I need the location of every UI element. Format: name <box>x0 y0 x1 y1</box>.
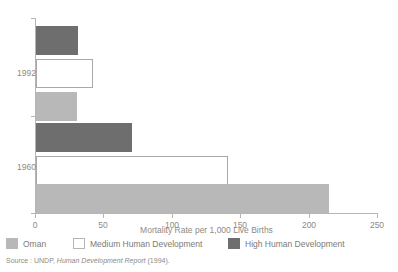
bar-1960-oman <box>36 184 329 213</box>
legend-swatch-oman <box>6 238 18 249</box>
source-prefix: Source : UNDP, <box>6 257 55 264</box>
legend-entry-medium-human-development: Medium Human Development <box>73 238 202 249</box>
bar-1992-medium-human-development <box>36 59 93 88</box>
bar-1992-oman <box>36 92 77 121</box>
bar-1960-medium-human-development <box>36 156 228 185</box>
legend-entry-high-human-development: High Human Development <box>228 238 345 249</box>
value-axis-tick <box>309 213 310 218</box>
legend-entry-oman: Oman <box>6 238 46 249</box>
plot-area: 1992 1960 0 50 100 150 200 250 <box>35 18 378 213</box>
value-axis-title: Mortality Rate per 1,000 Live Births <box>35 225 378 235</box>
legend-label-high-human-development: High Human Development <box>245 239 345 249</box>
legend-label-medium-human-development: Medium Human Development <box>90 239 202 249</box>
legend-swatch-high-human-development <box>228 238 240 249</box>
value-axis-tick <box>377 213 378 218</box>
source-publication: Human Development Report <box>57 257 146 264</box>
legend-label-oman: Oman <box>23 239 46 249</box>
source-note: Source : UNDP, Human Development Report … <box>6 257 170 264</box>
value-axis-tick <box>240 213 241 218</box>
category-label-1960: 1960 <box>17 162 36 172</box>
value-axis-tick <box>172 213 173 218</box>
category-axis-tick <box>31 18 36 19</box>
legend-swatch-medium-human-development <box>73 238 85 249</box>
value-axis-line <box>35 213 378 214</box>
value-axis-tick <box>103 213 104 218</box>
mortality-rate-bar-chart: 1992 1960 0 50 100 150 200 250 Mortality… <box>0 0 398 272</box>
bar-1960-high-human-development <box>36 123 132 152</box>
category-label-1992: 1992 <box>17 68 36 78</box>
source-suffix: (1994). <box>148 257 170 264</box>
value-axis-tick <box>35 213 36 218</box>
bar-1992-high-human-development <box>36 26 78 55</box>
